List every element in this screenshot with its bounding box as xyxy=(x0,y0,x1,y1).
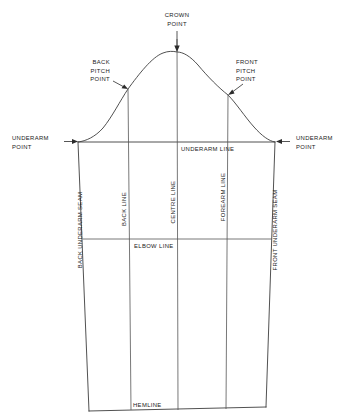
hemline-rule xyxy=(89,407,266,411)
crown-point-label-line1: CROWN xyxy=(165,12,190,18)
front-pitch-point-arrowhead xyxy=(228,90,235,96)
front-underarm-seam-label: FRONT UNDERARM SEAM xyxy=(272,190,278,271)
back-cap-curve-lower xyxy=(78,89,128,142)
underarm-point-left-label-line1: UNDERARM xyxy=(12,135,49,141)
front-pitch-point-label-line2: PITCH xyxy=(236,68,255,74)
front-underarm-seam-line xyxy=(266,142,275,407)
back-pitch-point-label-line3: POINT xyxy=(90,76,110,82)
centre-line-label: CENTRE LINE xyxy=(170,181,176,224)
underarm-line-label: UNDERARM LINE xyxy=(181,146,234,152)
back-line-rule xyxy=(128,89,131,410)
elbow-line-label: ELBOW LINE xyxy=(134,243,174,249)
hemline-label: HEMLINE xyxy=(133,402,162,408)
front-cap-curve-upper xyxy=(177,52,228,95)
underarm-point-right-label-line2: POINT xyxy=(296,144,316,150)
crown-point-label-line2: POINT xyxy=(167,21,187,27)
underarm-point-left-label-line2: POINT xyxy=(12,144,32,150)
back-cap-curve-upper xyxy=(128,51,177,89)
centre-line-rule xyxy=(177,39,178,410)
back-pitch-point-label-line1: BACK xyxy=(93,59,110,65)
back-pitch-point-arrowhead xyxy=(122,85,129,90)
forearm-line-label: FOREARM LINE xyxy=(220,173,226,221)
back-pitch-point-label-line2: PITCH xyxy=(91,68,110,74)
sleeve-diagram-canvas: CROWN POINT BACK PITCH POINT FRONT PITCH… xyxy=(0,0,344,419)
underarm-point-right-label-line1: UNDERARM xyxy=(296,135,333,141)
crown-point-arrowhead xyxy=(174,46,179,53)
front-pitch-point-label-line3: POINT xyxy=(236,76,256,82)
back-underarm-seam-line xyxy=(78,142,89,411)
sleeve-block-diagram: CROWN POINT BACK PITCH POINT FRONT PITCH… xyxy=(0,0,344,419)
front-cap-curve-lower xyxy=(228,95,275,142)
back-line-label: BACK LINE xyxy=(121,192,127,226)
underarm-point-right-arrowhead xyxy=(276,139,282,144)
front-pitch-point-label-line1: FRONT xyxy=(236,59,258,65)
underarm-point-left-arrowhead xyxy=(72,139,78,144)
back-underarm-seam-label: BACK UNDERARM SEAM xyxy=(77,192,83,268)
